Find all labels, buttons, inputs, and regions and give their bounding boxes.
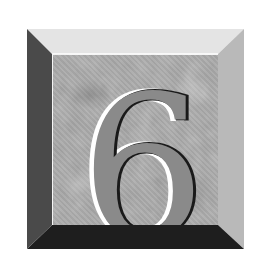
numeral-six: 6 6 6 bbox=[87, 90, 197, 225]
bevel-bottom bbox=[27, 225, 244, 249]
bevel-left bbox=[27, 29, 52, 249]
numeral-fill: 6 bbox=[81, 54, 206, 225]
number-tile: 6 6 6 bbox=[27, 29, 244, 249]
marble-face: 6 6 6 bbox=[52, 54, 218, 225]
bevel-right bbox=[218, 29, 244, 249]
bevel-top bbox=[27, 29, 244, 54]
